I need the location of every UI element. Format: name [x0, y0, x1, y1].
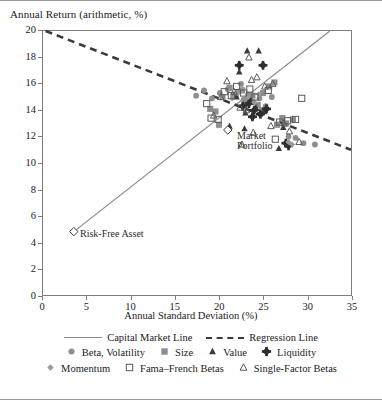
legend-label: Capital Market Line	[107, 332, 192, 343]
legend-swatch-solid-line	[64, 337, 102, 338]
data-point	[293, 135, 299, 141]
x-tick-mark	[131, 296, 132, 300]
legend-swatch-open-square	[124, 362, 135, 375]
y-tick-label: 12	[6, 131, 36, 141]
y-tick-label: 8	[6, 185, 36, 195]
x-tick-mark	[86, 296, 87, 300]
y-tick-label: 0	[6, 291, 36, 301]
legend-item-fama-french-betas[interactable]: Fama–French Betas	[124, 362, 224, 375]
y-tick-mark	[38, 83, 42, 84]
data-point	[312, 142, 318, 148]
data-point	[247, 86, 253, 92]
y-tick-mark	[38, 243, 42, 244]
y-tick-mark	[38, 163, 42, 164]
y-tick-label: 10	[6, 158, 36, 168]
data-point	[268, 123, 274, 129]
y-tick-mark	[38, 57, 42, 58]
legend-swatch-filled-circle	[66, 346, 77, 359]
data-point	[286, 128, 292, 134]
y-tick-label: 2	[6, 264, 36, 274]
legend-label: Beta, Volatility	[82, 347, 145, 358]
legend-item-size[interactable]: Size	[159, 346, 193, 359]
chart-legend: Capital Market LineRegression LineBeta, …	[0, 332, 382, 375]
x-tick-mark	[42, 296, 43, 300]
data-point	[246, 54, 252, 60]
annotation-risk-free-asset: Risk-Free Asset	[80, 229, 144, 240]
y-axis-title: Annual Return (arithmetic, %)	[10, 8, 147, 20]
x-tick-mark	[175, 296, 176, 300]
y-tick-label: 18	[6, 52, 36, 62]
legend-item-beta-volatility[interactable]: Beta, Volatility	[66, 346, 145, 359]
data-point	[255, 47, 261, 53]
legend-swatch-filled-plus-diamond	[261, 346, 272, 359]
data-point	[299, 95, 305, 101]
legend-item-momentum[interactable]: Momentum	[45, 362, 110, 375]
x-tick-mark	[219, 296, 220, 300]
legend-item-liquidity[interactable]: Liquidity	[261, 346, 316, 359]
legend-item-capital-market-line[interactable]: Capital Market Line	[64, 332, 192, 343]
x-axis-title: Annual Standard Deviation (%)	[0, 310, 382, 321]
y-tick-mark	[38, 30, 42, 31]
bottom-divider	[0, 399, 382, 400]
data-point	[193, 93, 199, 99]
plot-svg	[43, 31, 351, 295]
data-point	[272, 136, 278, 142]
data-point	[235, 61, 244, 70]
data-point	[244, 47, 250, 53]
legend-item-value[interactable]: Value	[207, 346, 247, 359]
legend-row-2: Beta, VolatilitySizeValueLiquidity	[59, 346, 323, 359]
data-point	[276, 145, 282, 151]
x-tick-mark	[352, 296, 353, 300]
line-regression-line	[46, 31, 351, 150]
legend-label: Value	[223, 347, 247, 358]
y-tick-mark	[38, 190, 42, 191]
x-tick-mark	[308, 296, 309, 300]
y-tick-mark	[38, 269, 42, 270]
y-tick-label: 20	[6, 25, 36, 35]
legend-row-1: Capital Market LineRegression Line	[57, 332, 325, 343]
legend-label: Momentum	[61, 363, 110, 374]
y-tick-label: 16	[6, 78, 36, 88]
y-tick-label: 4	[6, 238, 36, 248]
top-divider	[0, 0, 382, 1]
plot-area	[42, 30, 352, 296]
legend-swatch-filled-triangle	[207, 346, 218, 359]
annotation-market-portfolio: MarketPortfolio	[237, 131, 273, 152]
data-point	[248, 112, 257, 121]
y-tick-label: 6	[6, 211, 36, 221]
data-point	[269, 94, 275, 100]
y-tick-mark	[38, 110, 42, 111]
legend-swatch-small-filled-diamond	[45, 362, 56, 375]
legend-label: Fama–French Betas	[140, 363, 224, 374]
data-point	[254, 74, 260, 80]
data-point	[204, 101, 210, 107]
x-tick-mark	[263, 296, 264, 300]
y-tick-mark	[38, 216, 42, 217]
legend-label: Single-Factor Betas	[254, 363, 337, 374]
data-point	[286, 134, 292, 140]
legend-swatch-dashed-line	[206, 337, 244, 339]
data-point	[224, 78, 230, 84]
legend-item-regression-line[interactable]: Regression Line	[206, 332, 318, 343]
legend-label: Size	[175, 347, 193, 358]
legend-item-single-factor-betas[interactable]: Single-Factor Betas	[238, 362, 337, 375]
chart-container: Annual Return (arithmetic, %) 0246810121…	[0, 0, 382, 404]
data-point	[259, 61, 268, 70]
y-tick-label: 14	[6, 105, 36, 115]
legend-swatch-filled-square	[159, 346, 170, 359]
y-tick-mark	[38, 136, 42, 137]
data-point	[201, 87, 207, 93]
legend-row-3: MomentumFama–French BetasSingle-Factor B…	[38, 362, 344, 375]
legend-swatch-open-triangle	[238, 362, 249, 375]
legend-label: Liquidity	[277, 347, 316, 358]
legend-label: Regression Line	[249, 332, 318, 343]
